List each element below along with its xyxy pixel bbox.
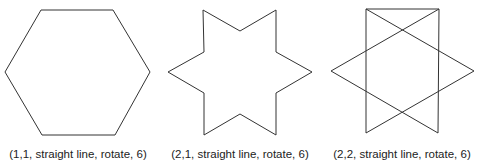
caption-panel-1: (1,1, straight line, rotate, 6) [8, 146, 148, 162]
shapes-canvas [0, 0, 479, 167]
hexagon-shape [5, 10, 150, 135]
caption-panel-3: (2,2, straight line, rotate, 6) [332, 146, 472, 162]
hexagram-shape [331, 9, 474, 133]
rotation-figure: (1,1, straight line, rotate, 6) (2,1, st… [0, 0, 479, 167]
star-outline-shape [168, 10, 312, 135]
caption-panel-2: (2,1, straight line, rotate, 6) [170, 146, 310, 162]
